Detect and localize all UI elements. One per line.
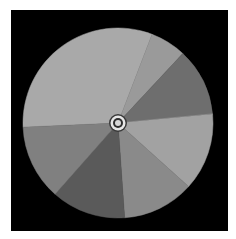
center-pin-icon[interactable] (109, 114, 127, 132)
pin-ring-3 (115, 120, 121, 126)
spinning-wheel[interactable] (0, 0, 236, 239)
